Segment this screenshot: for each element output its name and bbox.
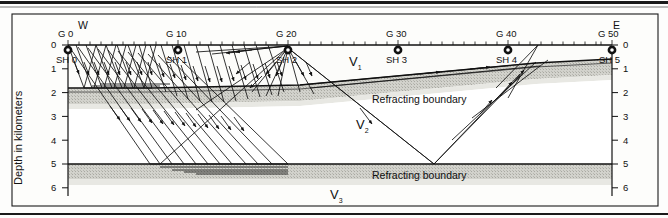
y-tick-label-right-2: 2 [623,88,628,98]
geophone-label-g50: G 50 [598,29,619,39]
layer-label-v1: V1 [349,55,362,71]
y-tick-label-left-0: 0 [51,40,56,50]
layer-label-v3-text: V [330,187,339,202]
lower-refracting-boundary-band-soft [68,179,612,185]
y-tick-label-right-5: 5 [623,159,628,169]
y-tick-label-left-2: 2 [51,88,56,98]
shotpoint-label-sh1: SH 1 [166,55,187,65]
y-tick-label-right-4: 4 [623,136,628,146]
y-tick-label-left-5: 5 [51,159,56,169]
y-axis-title: Depth in kilometers [12,91,24,185]
shotpoint-label-sh2: SH 2 [276,55,297,65]
shotpoint-label-sh0: SH 0 [56,55,77,65]
geophone-label-g20: G 20 [276,29,297,39]
seismic-cross-section-figure [0,0,668,218]
geophone-label-g0: G 0 [58,29,73,39]
y-tick-label-right-1: 1 [623,64,628,74]
y-tick-label-right-0: 0 [623,40,628,50]
compass-west-label: W [78,20,88,31]
geophone-label-g10: G 10 [166,29,187,39]
layer-label-v2: V2 [356,118,369,134]
upper-refracting-boundary-label: Refracting boundary [372,94,467,105]
y-tick-label-right-3: 3 [623,112,628,122]
layer-label-v3-subscript: 3 [339,197,343,204]
layer-label-v1-text: V [349,54,358,69]
layer-label-v1-subscript: 1 [358,64,362,71]
page-top-rule [0,3,668,8]
shotpoint-label-sh5: SH 5 [599,55,620,65]
shotpoint-label-sh4: SH 4 [496,55,517,65]
shotpoint-label-sh3: SH 3 [386,55,407,65]
layer-label-v2-text: V [356,117,365,132]
y-tick-label-left-1: 1 [51,64,56,74]
y-tick-label-left-4: 4 [51,136,56,146]
geophone-label-g30: G 30 [386,29,407,39]
lower-refracting-boundary-band [68,164,612,179]
lower-refracting-boundary-label: Refracting boundary [372,170,467,181]
figure-page: W E Depth in kilometers 0 1 2 3 4 5 6 0 … [0,0,668,218]
geophone-label-g40: G 40 [496,29,517,39]
y-tick-label-left-3: 3 [51,112,56,122]
layer-label-v3: V3 [330,188,343,204]
layer-label-v2-subscript: 2 [365,127,369,134]
y-tick-label-left-6: 6 [51,183,56,193]
y-tick-label-right-6: 6 [623,183,628,193]
